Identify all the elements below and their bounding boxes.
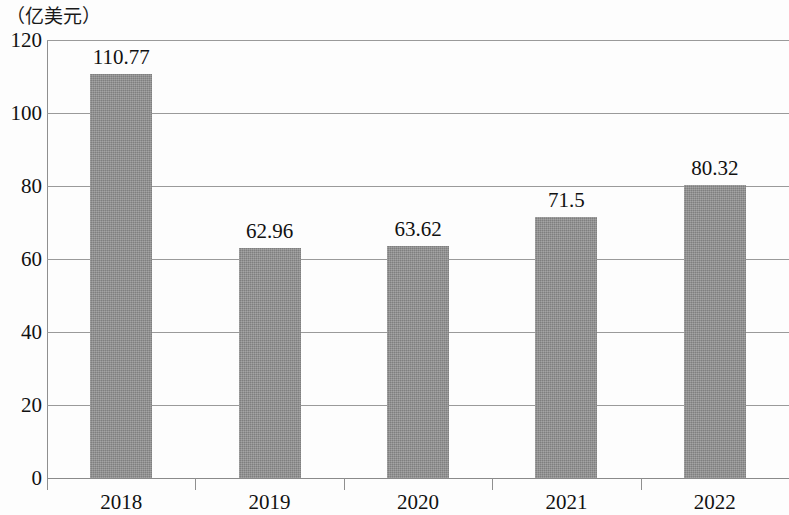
- x-axis-tick-mark: [195, 478, 196, 490]
- x-axis: 20182019202020212022: [47, 478, 789, 515]
- x-axis-tick-mark: [492, 478, 493, 490]
- bar-value-label: 110.77: [61, 47, 181, 68]
- y-axis-unit-title: （亿美元）: [6, 1, 101, 28]
- bar-value-label: 71.5: [506, 190, 626, 211]
- y-axis-tick-label: 0: [2, 468, 42, 489]
- bar: [90, 74, 152, 478]
- x-axis-tick-label: 2020: [358, 492, 478, 513]
- bar-value-label: 80.32: [655, 158, 775, 179]
- plot-area: [47, 40, 789, 478]
- bar: [684, 185, 746, 478]
- chart-canvas: （亿美元） 020406080100120 110.7762.9663.6271…: [0, 0, 789, 515]
- x-axis-tick-mark: [47, 478, 48, 490]
- x-axis-tick-mark: [344, 478, 345, 490]
- bar: [387, 246, 449, 478]
- y-axis-tick-label: 20: [2, 395, 42, 416]
- bar-value-label: 62.96: [210, 221, 330, 242]
- bar-value-label: 63.62: [358, 219, 478, 240]
- bar: [239, 248, 301, 478]
- x-axis-tick-label: 2021: [506, 492, 626, 513]
- y-axis-tick-label: 80: [2, 176, 42, 197]
- y-axis-tick-label: 120: [2, 30, 42, 51]
- x-axis-tick-label: 2019: [210, 492, 330, 513]
- bar: [535, 217, 597, 478]
- y-axis-tick-label: 40: [2, 322, 42, 343]
- y-axis-tick-labels: 020406080100120: [0, 40, 42, 478]
- gridline: [47, 186, 789, 187]
- gridline: [47, 40, 789, 41]
- x-axis-tick-label: 2022: [655, 492, 775, 513]
- gridline: [47, 113, 789, 114]
- y-axis-tick-label: 60: [2, 249, 42, 270]
- x-axis-tick-label: 2018: [61, 492, 181, 513]
- y-axis-tick-label: 100: [2, 103, 42, 124]
- x-axis-tick-mark: [641, 478, 642, 490]
